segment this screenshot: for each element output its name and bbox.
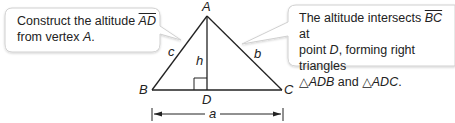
vertex-label-a: A — [202, 0, 211, 14]
triangle-adc: ADC — [372, 75, 398, 89]
altitude-label-h: h — [196, 53, 203, 68]
triangle-icon: △ — [362, 75, 372, 89]
dimension-line-a — [152, 108, 283, 121]
triangle-adb: ADB — [309, 75, 335, 89]
side-label-a: a — [209, 106, 216, 121]
point-ref-d: D — [330, 43, 339, 57]
right-angle-marker — [194, 78, 207, 90]
segment-ad: AD — [139, 14, 156, 28]
side-label-b: b — [254, 46, 261, 61]
triangle-icon: △ — [299, 75, 309, 89]
left-callout-text: Construct the altitude AD from vertex A. — [17, 13, 156, 45]
side-label-c: c — [168, 44, 175, 59]
vertex-label-c: C — [284, 82, 293, 97]
right-callout-text: The altitude intersects BC at point D, f… — [299, 10, 455, 90]
side-b — [207, 16, 282, 90]
vertex-label-b: B — [139, 82, 148, 97]
vertex-label-d: D — [202, 92, 211, 107]
segment-bc: BC — [425, 11, 442, 25]
